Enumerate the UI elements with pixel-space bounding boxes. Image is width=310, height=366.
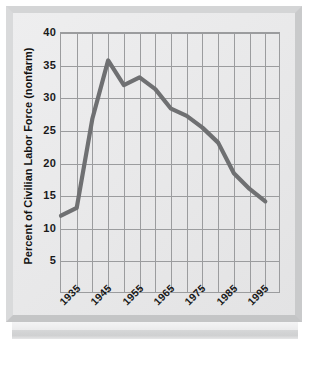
y-tick-label: 30 (16, 91, 56, 103)
y-tick-label: 20 (16, 157, 56, 169)
y-tick-label: 10 (16, 222, 56, 234)
line-chart: Percent of Civilian Labor Force (nonfarm… (0, 0, 310, 366)
y-tick-label: 25 (16, 124, 56, 136)
y-tick-label: 5 (16, 254, 56, 266)
y-tick-label: 35 (16, 59, 56, 71)
data-series-line (61, 33, 281, 294)
plot-area (60, 32, 280, 293)
y-tick-label: 15 (16, 189, 56, 201)
y-tick-label: 40 (16, 26, 56, 38)
